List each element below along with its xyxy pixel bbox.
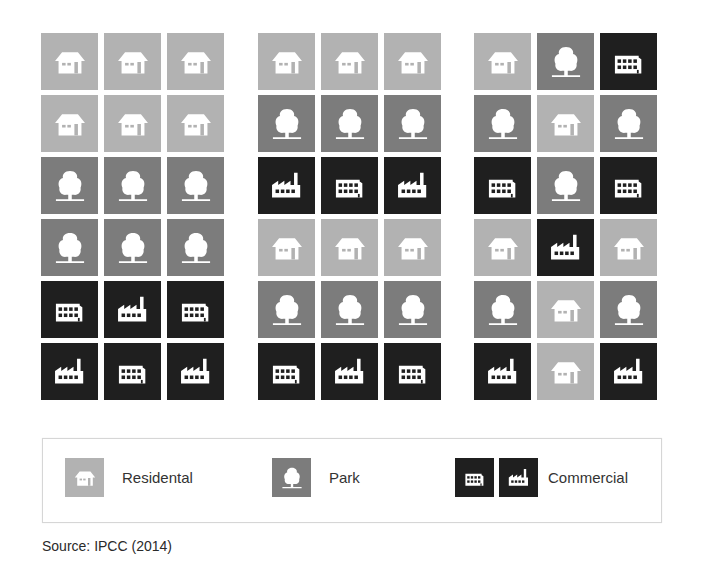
- tile-park: [600, 281, 657, 338]
- tree-icon: [111, 164, 155, 208]
- tile-residential: [167, 33, 224, 90]
- house-icon: [544, 102, 588, 146]
- tile-park: [258, 95, 315, 152]
- house-icon: [328, 40, 372, 84]
- legend-swatch-park: [272, 458, 311, 497]
- tile-park: [41, 219, 98, 276]
- tree-icon: [174, 226, 218, 270]
- tile-park: [167, 219, 224, 276]
- land-use-grid-2: [258, 33, 441, 400]
- tile-park: [600, 95, 657, 152]
- tile-park: [321, 95, 378, 152]
- factory-icon: [481, 350, 525, 394]
- house-icon: [265, 226, 309, 270]
- tile-commercial: [104, 281, 161, 338]
- tree-icon: [607, 288, 651, 332]
- tile-residential: [41, 95, 98, 152]
- house-icon: [391, 40, 435, 84]
- tree-icon: [328, 102, 372, 146]
- house-icon: [174, 40, 218, 84]
- factory-icon: [265, 164, 309, 208]
- house-icon: [607, 226, 651, 270]
- tile-park: [104, 219, 161, 276]
- legend-label-commercial: Commercial: [548, 469, 628, 486]
- tree-icon: [607, 102, 651, 146]
- office-icon: [607, 164, 651, 208]
- tile-residential: [167, 95, 224, 152]
- tile-park: [104, 157, 161, 214]
- tree-icon: [48, 226, 92, 270]
- tile-commercial: [167, 343, 224, 400]
- tree-icon: [277, 463, 307, 493]
- tile-commercial: [537, 219, 594, 276]
- tile-commercial: [41, 343, 98, 400]
- house-icon: [481, 40, 525, 84]
- legend-swatch-residential: [65, 458, 104, 497]
- tile-park: [321, 281, 378, 338]
- tile-commercial: [321, 157, 378, 214]
- office-icon: [174, 288, 218, 332]
- tile-park: [537, 33, 594, 90]
- tile-commercial: [321, 343, 378, 400]
- tile-park: [474, 95, 531, 152]
- office-icon: [48, 288, 92, 332]
- tile-residential: [321, 219, 378, 276]
- tree-icon: [481, 288, 525, 332]
- tile-residential: [384, 33, 441, 90]
- tree-icon: [544, 164, 588, 208]
- tree-icon: [48, 164, 92, 208]
- house-icon: [48, 102, 92, 146]
- legend-label-residential: Residental: [122, 469, 193, 486]
- tile-commercial: [167, 281, 224, 338]
- house-icon: [544, 350, 588, 394]
- house-icon: [391, 226, 435, 270]
- legend-item-park: Park: [272, 458, 360, 497]
- tile-commercial: [258, 343, 315, 400]
- tree-icon: [265, 288, 309, 332]
- office-icon: [111, 350, 155, 394]
- tile-commercial: [104, 343, 161, 400]
- tile-residential: [258, 219, 315, 276]
- factory-icon: [544, 226, 588, 270]
- tile-residential: [474, 33, 531, 90]
- tile-residential: [384, 219, 441, 276]
- house-icon: [111, 40, 155, 84]
- tree-icon: [328, 288, 372, 332]
- house-icon: [70, 463, 100, 493]
- factory-icon: [391, 164, 435, 208]
- tile-park: [167, 157, 224, 214]
- tile-commercial: [600, 157, 657, 214]
- legend-item-residential: Residental: [65, 458, 193, 497]
- tile-commercial: [258, 157, 315, 214]
- tile-residential: [104, 95, 161, 152]
- house-icon: [544, 288, 588, 332]
- source-caption: Source: IPCC (2014): [42, 538, 172, 554]
- house-icon: [328, 226, 372, 270]
- tree-icon: [391, 288, 435, 332]
- tile-residential: [537, 343, 594, 400]
- tree-icon: [174, 164, 218, 208]
- tile-residential: [321, 33, 378, 90]
- house-icon: [48, 40, 92, 84]
- tile-residential: [258, 33, 315, 90]
- tree-icon: [111, 226, 155, 270]
- legend: Residental Park Commercial: [42, 438, 662, 523]
- house-icon: [111, 102, 155, 146]
- tile-commercial: [474, 343, 531, 400]
- tile-park: [384, 95, 441, 152]
- house-icon: [481, 226, 525, 270]
- tile-residential: [537, 95, 594, 152]
- legend-swatch-commercial: [455, 458, 494, 497]
- legend-label-park: Park: [329, 469, 360, 486]
- office-icon: [607, 40, 651, 84]
- factory-icon: [111, 288, 155, 332]
- land-use-grid-1: [41, 33, 224, 400]
- office-icon: [265, 350, 309, 394]
- factory-icon: [607, 350, 651, 394]
- tree-icon: [544, 40, 588, 84]
- tile-commercial: [384, 343, 441, 400]
- tile-commercial: [600, 343, 657, 400]
- office-icon: [481, 164, 525, 208]
- factory-icon: [174, 350, 218, 394]
- tile-park: [41, 157, 98, 214]
